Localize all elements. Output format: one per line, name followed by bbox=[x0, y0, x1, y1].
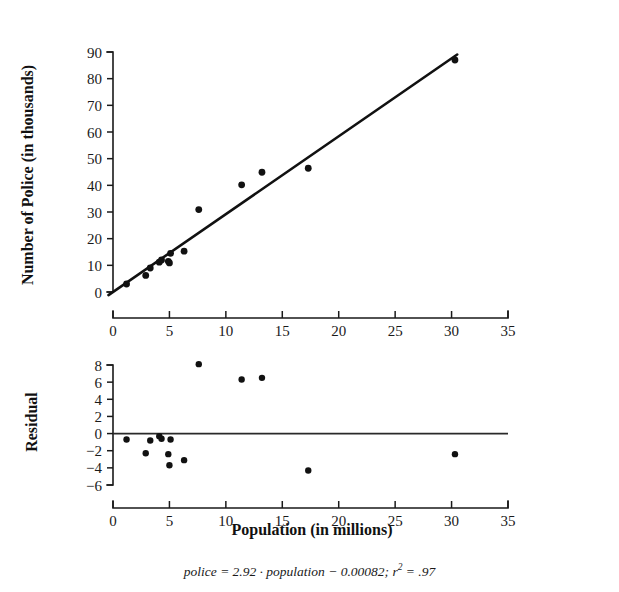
top-x-ticks bbox=[113, 311, 508, 318]
residual-point bbox=[167, 436, 173, 442]
bottom-x-tick-label: 15 bbox=[275, 513, 290, 529]
top-y-axis-line bbox=[107, 52, 113, 292]
data-point bbox=[166, 260, 173, 267]
top-y-tick-labels: 0102030405060708090 bbox=[87, 45, 102, 301]
top-x-tick-labels: 05101520253035 bbox=[109, 323, 515, 339]
residual-point bbox=[305, 467, 311, 473]
residual-point bbox=[238, 376, 244, 382]
bottom-y-tick-label: −4 bbox=[86, 460, 102, 476]
regression-equation-caption: police = 2.92 · population − 0.00082; r2… bbox=[0, 562, 619, 580]
bottom-x-tick-label: 35 bbox=[501, 513, 516, 529]
data-point bbox=[305, 165, 312, 172]
top-x-tick-label: 10 bbox=[218, 323, 233, 339]
data-point bbox=[452, 57, 459, 64]
top-x-tick-label: 25 bbox=[388, 323, 403, 339]
bottom-y-tick-label: −2 bbox=[86, 443, 102, 459]
data-point bbox=[142, 272, 149, 279]
bottom-y-axis-line bbox=[107, 365, 113, 485]
residual-point bbox=[166, 462, 172, 468]
top-y-tick-label: 10 bbox=[87, 258, 102, 274]
top-x-tick-label: 30 bbox=[444, 323, 459, 339]
residual-point bbox=[143, 450, 149, 456]
caption-r-squared-value: = .97 bbox=[402, 564, 435, 579]
bottom-y-tick-label: 6 bbox=[95, 375, 103, 391]
bottom-y-tick-label: 4 bbox=[95, 392, 103, 408]
bottom-y-tick-labels: −6−4−202468 bbox=[86, 358, 102, 494]
caption-equation: police = 2.92 · population − 0.00082; r bbox=[184, 564, 398, 579]
top-x-tick-label: 35 bbox=[501, 323, 516, 339]
residual-chart: Residual Population (in millions) −6−4−2… bbox=[0, 340, 619, 560]
top-y-tick-label: 80 bbox=[87, 71, 102, 87]
residual-point bbox=[181, 457, 187, 463]
top-x-tick-label: 15 bbox=[275, 323, 290, 339]
top-data-points bbox=[123, 57, 458, 288]
top-x-tick-label: 20 bbox=[331, 323, 346, 339]
bottom-x-ticks bbox=[113, 501, 508, 508]
top-y-tick-label: 70 bbox=[87, 98, 102, 114]
residual-point bbox=[158, 436, 164, 442]
top-y-tick-label: 0 bbox=[95, 285, 103, 301]
top-y-tick-label: 30 bbox=[87, 205, 102, 221]
bottom-x-axis-title: Population (in millions) bbox=[232, 521, 393, 539]
bottom-x-tick-label: 5 bbox=[166, 513, 174, 529]
bottom-y-tick-label: 2 bbox=[95, 409, 103, 425]
data-point bbox=[259, 169, 266, 176]
top-x-tick-label: 5 bbox=[166, 323, 174, 339]
top-y-tick-label: 60 bbox=[87, 125, 102, 141]
bottom-y-tick-label: −6 bbox=[86, 478, 102, 494]
data-point bbox=[147, 265, 154, 272]
figure-panel: Number of Police (in thousands) 01020304… bbox=[0, 0, 619, 592]
data-point bbox=[238, 181, 245, 188]
residual-point bbox=[259, 375, 265, 381]
top-x-tick-label: 0 bbox=[109, 323, 117, 339]
data-point bbox=[123, 281, 130, 288]
top-y-ticks bbox=[107, 52, 113, 292]
data-point bbox=[158, 257, 165, 264]
bottom-y-tick-label: 8 bbox=[95, 358, 103, 374]
residual-point bbox=[196, 361, 202, 367]
bottom-x-tick-label: 25 bbox=[388, 513, 403, 529]
residual-data-points bbox=[123, 361, 458, 474]
bottom-y-tick-label: 0 bbox=[95, 426, 103, 442]
bottom-x-tick-label: 10 bbox=[218, 513, 233, 529]
data-point bbox=[181, 248, 188, 255]
top-y-axis-title: Number of Police (in thousands) bbox=[19, 65, 37, 285]
bottom-x-tick-label: 20 bbox=[331, 513, 346, 529]
bottom-y-axis-title: Residual bbox=[23, 392, 40, 452]
bottom-x-axis-line bbox=[113, 501, 508, 508]
residual-point bbox=[452, 451, 458, 457]
police-vs-population-chart: Number of Police (in thousands) 01020304… bbox=[0, 0, 619, 340]
bottom-y-ticks bbox=[107, 365, 113, 485]
residual-point bbox=[123, 436, 129, 442]
top-y-tick-label: 50 bbox=[87, 151, 102, 167]
bottom-x-tick-label: 30 bbox=[444, 513, 459, 529]
data-point bbox=[167, 250, 174, 257]
top-y-tick-label: 20 bbox=[87, 231, 102, 247]
top-y-tick-label: 40 bbox=[87, 178, 102, 194]
bottom-x-tick-label: 0 bbox=[109, 513, 117, 529]
top-x-axis-line bbox=[113, 311, 508, 318]
top-y-tick-label: 90 bbox=[87, 45, 102, 61]
residual-point bbox=[165, 451, 171, 457]
residual-point bbox=[147, 437, 153, 443]
data-point bbox=[195, 206, 202, 213]
